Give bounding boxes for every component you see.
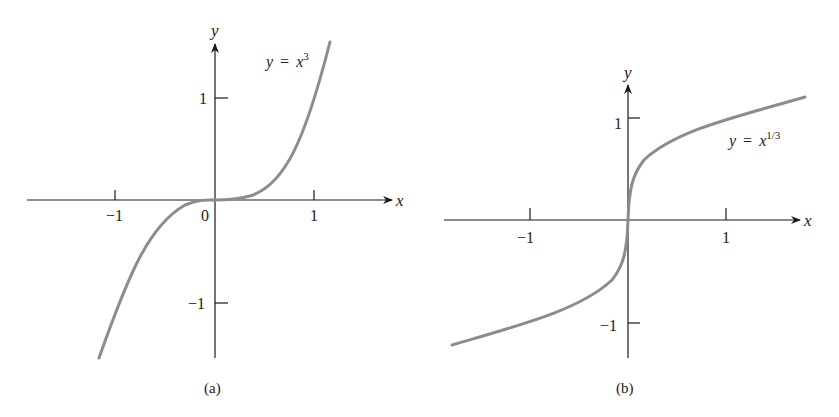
y-tick-label-1: 1	[199, 90, 207, 107]
x-axis-label: x	[803, 211, 812, 230]
y-tick-label--1: −1	[600, 317, 617, 334]
panel-b: y x −1 1 1 −1 y = x1/3 (b)	[444, 63, 812, 397]
curve-label-cubic: y = x3	[264, 50, 309, 71]
x-tick-label-1: 1	[722, 229, 730, 246]
y-axis-label: y	[622, 63, 632, 82]
panel-a: y x −1 0 1 1 −1 y = x3 (a)	[27, 21, 404, 397]
y-tick-label-1: 1	[614, 115, 622, 132]
y-axis-label: y	[209, 21, 219, 40]
x-tick-label--1: −1	[517, 229, 534, 246]
x-tick-label-0: 0	[201, 207, 209, 224]
x-tick-label--1: −1	[106, 207, 123, 224]
panel-label-b: (b)	[616, 380, 634, 397]
curve-label-cube-root: y = x1/3	[727, 129, 781, 150]
y-tick-label--1: −1	[188, 295, 205, 312]
x-axis-label: x	[395, 191, 404, 210]
panel-label-a: (a)	[204, 380, 221, 397]
x-tick-label-1: 1	[310, 207, 318, 224]
figure: y x −1 0 1 1 −1 y = x3 (a) y x −1 1 1 −1	[0, 0, 839, 417]
